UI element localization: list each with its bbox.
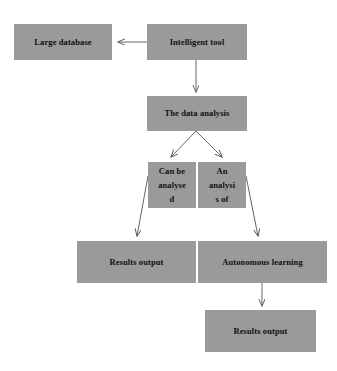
node-results-output-secondary[interactable]: Results output	[205, 310, 316, 352]
flowchart-canvas: Large database Intelligent tool The data…	[0, 0, 337, 371]
node-the-data-analysis-label: The data analysis	[150, 107, 244, 119]
node-results-output-primary-label: Results output	[80, 256, 193, 268]
node-autonomous-learning[interactable]: Autonomous learning	[198, 241, 327, 283]
node-autonomous-learning-label: Autonomous learning	[201, 256, 324, 268]
node-large-database-label: Large database	[17, 36, 109, 48]
node-can-be-analysed[interactable]: Can be analyse d	[148, 162, 196, 208]
node-intelligent-tool-label: Intelligent tool	[150, 36, 244, 48]
node-an-analysis-of-label: An analysi s of	[201, 164, 243, 206]
node-an-analysis-of[interactable]: An analysi s of	[198, 162, 246, 208]
edge-analysis-to-canbe	[171, 131, 196, 157]
node-intelligent-tool[interactable]: Intelligent tool	[147, 24, 247, 60]
node-large-database[interactable]: Large database	[14, 24, 112, 60]
edge-canbe-to-results	[137, 176, 148, 236]
edge-analysis-to-anof	[196, 131, 222, 157]
edge-anof-to-autonomous	[246, 176, 258, 236]
node-results-output-primary[interactable]: Results output	[77, 241, 196, 283]
node-can-be-analysed-label: Can be analyse d	[151, 164, 193, 206]
node-the-data-analysis[interactable]: The data analysis	[147, 96, 247, 131]
node-results-output-secondary-label: Results output	[208, 325, 313, 337]
